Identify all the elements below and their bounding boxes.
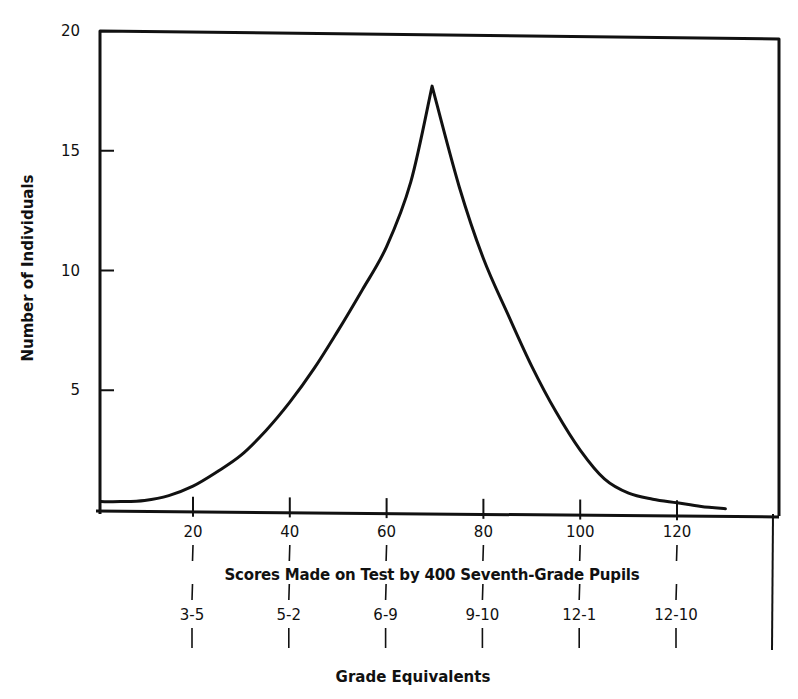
- x-tick-label: 20: [183, 523, 202, 541]
- grade-equivalent-scale: 3-55-26-99-1012-112-10: [180, 606, 698, 648]
- grade-label: 12-1: [562, 606, 596, 624]
- grade-label: 6-9: [373, 606, 398, 624]
- y-tick-label: 10: [61, 262, 80, 280]
- x-tick-label: 80: [474, 523, 493, 541]
- chart-svg: 5101520 20406080100120 3-55-26-99-1012-1…: [0, 0, 798, 699]
- distribution-curve: [101, 86, 725, 509]
- scale-connector: [676, 584, 677, 600]
- scale-connector: [386, 584, 387, 600]
- scale-connector: [289, 545, 290, 561]
- x-tick-label: 60: [377, 523, 396, 541]
- grade-label: 9-10: [465, 606, 499, 624]
- grade-label: 3-5: [180, 606, 205, 624]
- scale-connector: [482, 584, 483, 600]
- scale-connector: [193, 545, 194, 561]
- scale-connector: [483, 545, 484, 561]
- y-tick-label: 15: [61, 142, 80, 160]
- y-tick-label: 5: [70, 381, 80, 399]
- grade-label: 12-10: [654, 606, 698, 624]
- scale-connector: [677, 545, 678, 561]
- y-axis-title: Number of Individuals: [19, 174, 37, 361]
- scale-connector: [289, 584, 290, 600]
- x-tick-label: 100: [566, 523, 595, 541]
- scale-connector: [579, 584, 580, 600]
- scale-connector: [192, 584, 193, 600]
- y-tick-label: 20: [61, 22, 80, 40]
- scale-connector: [386, 545, 387, 561]
- grade-label: 5-2: [277, 606, 302, 624]
- x-tick-label: 120: [663, 523, 692, 541]
- grade-equivalents-title: Grade Equivalents: [336, 668, 491, 686]
- plot-border: [100, 31, 779, 516]
- right-extension-line: [772, 514, 773, 650]
- scale-connector: [580, 545, 581, 561]
- y-axis-ticks: 5101520: [61, 22, 114, 399]
- x-axis-title: Scores Made on Test by 400 Seventh-Grade…: [225, 566, 640, 584]
- x-tick-label: 40: [280, 523, 299, 541]
